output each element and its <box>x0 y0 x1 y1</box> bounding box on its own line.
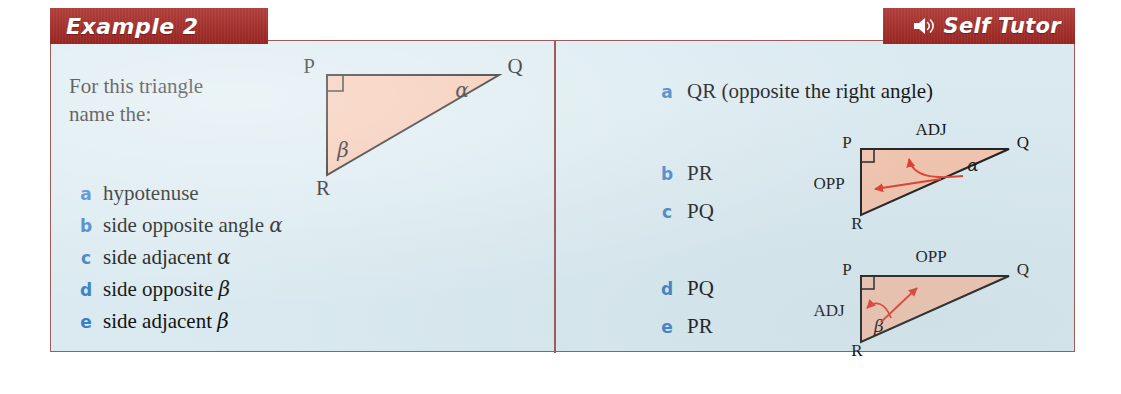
greek-alpha: α <box>217 245 231 269</box>
answer-marker-e: e <box>647 317 687 337</box>
triangle-pqr-alpha: P Q R α ADJ OPP <box>813 119 1068 229</box>
list-marker-d: d <box>69 280 103 300</box>
answer-marker-c: c <box>647 202 687 222</box>
side-label-opp: OPP <box>915 247 946 266</box>
vertex-label-q: Q <box>1017 260 1029 279</box>
answer-text-e: PR <box>687 314 713 339</box>
list-text-d: side opposite β <box>103 277 230 302</box>
list-item: d side opposite β <box>69 277 369 309</box>
angle-label-beta: β <box>873 316 884 336</box>
vertex-label-p: P <box>303 54 315 78</box>
angle-label-beta: β <box>336 138 349 162</box>
side-label-adj: ADJ <box>813 301 845 320</box>
answer-text-a: QR (opposite the right angle) <box>687 79 933 104</box>
list-marker-e: e <box>69 312 103 332</box>
greek-beta: β <box>219 277 231 301</box>
answer-row-c: c PQ <box>647 199 714 224</box>
vertex-label-p: P <box>842 260 851 279</box>
triangle-shape <box>327 75 499 175</box>
answer-text-d: PQ <box>687 276 714 301</box>
list-item: c side adjacent α <box>69 245 369 277</box>
answer-marker-d: d <box>647 279 687 299</box>
angle-label-alpha: α <box>455 78 469 102</box>
answer-row-e: e PR <box>647 314 713 339</box>
vertex-label-r: R <box>851 214 863 233</box>
list-text-e: side adjacent β <box>103 309 229 334</box>
vertex-label-q: Q <box>507 54 522 78</box>
list-item: b side opposite angle α <box>69 213 369 245</box>
left-panel: For this triangle name the: a hypotenuse… <box>51 41 554 353</box>
answer-row-b: b PR <box>647 161 713 186</box>
list-text-a: hypotenuse <box>103 181 199 206</box>
side-label-opp: OPP <box>813 174 844 193</box>
vertex-label-r: R <box>851 341 863 360</box>
example-card: For this triangle name the: a hypotenuse… <box>50 40 1075 352</box>
example-label: Example 2 <box>50 14 199 39</box>
intro-line-1: For this triangle <box>69 73 269 101</box>
triangle-pqr-main: P Q R α β <box>287 47 549 197</box>
answer-marker-a: a <box>647 82 687 102</box>
answer-marker-b: b <box>647 164 687 184</box>
list-marker-c: c <box>69 248 103 268</box>
intro-text: For this triangle name the: <box>69 73 269 128</box>
vertex-label-q: Q <box>1017 133 1029 152</box>
list-marker-b: b <box>69 216 103 236</box>
list-text-b: side opposite angle α <box>103 213 283 238</box>
example-banner: Example 2 <box>50 8 268 44</box>
answer-row-a: a QR (opposite the right angle) <box>647 79 933 104</box>
side-label-adj: ADJ <box>915 120 947 139</box>
question-list: a hypotenuse b side opposite angle α c s… <box>69 181 369 341</box>
answer-row-d: d PQ <box>647 276 714 301</box>
angle-label-alpha: α <box>967 155 979 175</box>
panel-divider <box>554 41 556 353</box>
right-panel: a QR (opposite the right angle) b PR c P… <box>555 41 1076 353</box>
vertex-label-p: P <box>842 133 851 152</box>
intro-line-2: name the: <box>69 101 269 129</box>
answer-text-c: PQ <box>687 199 714 224</box>
speaker-icon <box>912 15 938 37</box>
list-item: e side adjacent β <box>69 309 369 341</box>
answer-text-b: PR <box>687 161 713 186</box>
list-text-c: side adjacent α <box>103 245 231 270</box>
triangle-pqr-beta: P Q R β OPP ADJ <box>813 246 1068 356</box>
greek-beta: β <box>217 309 229 333</box>
self-tutor-label: Self Tutor <box>944 14 1075 38</box>
figure-root: For this triangle name the: a hypotenuse… <box>0 0 1121 394</box>
self-tutor-banner[interactable]: Self Tutor <box>883 8 1075 44</box>
list-marker-a: a <box>69 184 103 204</box>
vertex-label-r: R <box>316 176 330 200</box>
triangle-shape <box>861 149 1009 215</box>
greek-alpha: α <box>269 213 283 237</box>
